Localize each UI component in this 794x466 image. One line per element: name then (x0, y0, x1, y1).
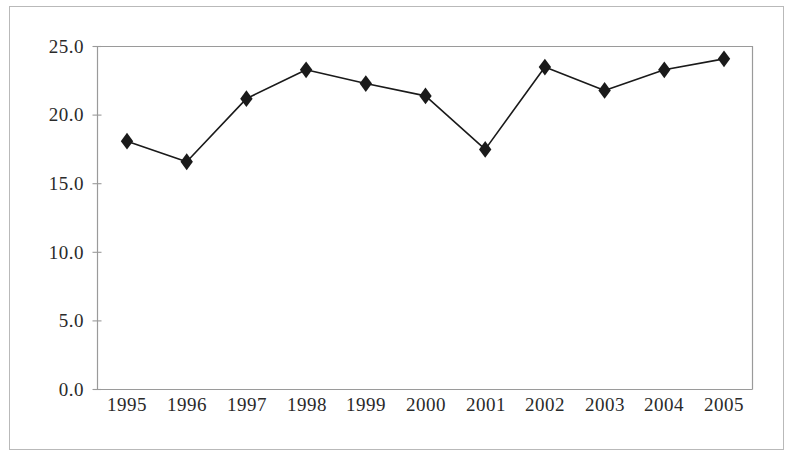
chart-page: 25.0 20.0 15.0 10.0 5.0 0.0 1995 1996 19… (0, 0, 794, 466)
data-point-marker (658, 61, 670, 78)
data-point-marker (121, 133, 133, 150)
data-point-marker (360, 75, 372, 92)
data-point-marker (718, 50, 730, 67)
data-point-marker (181, 153, 193, 170)
series-markers (121, 50, 730, 170)
data-point-marker (598, 82, 610, 99)
data-point-marker (300, 61, 312, 78)
series-line (127, 59, 724, 162)
data-point-marker (240, 90, 252, 107)
line-chart: 25.0 20.0 15.0 10.0 5.0 0.0 1995 1996 19… (0, 0, 794, 466)
plot-canvas (0, 0, 794, 466)
data-point-marker (419, 87, 431, 104)
